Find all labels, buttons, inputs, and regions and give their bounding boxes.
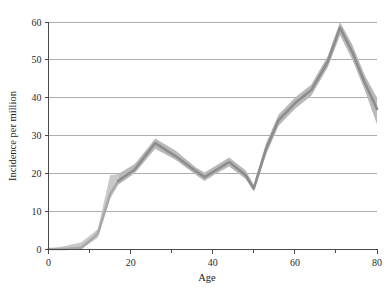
incidence-line-main	[118, 28, 377, 189]
y-tick-label-20: 20	[32, 168, 42, 179]
y-tick-label-50: 50	[32, 54, 42, 65]
incidence-by-age-line-chart: 0102030405060020406080 Age Incidence per…	[0, 0, 392, 291]
gridlines	[49, 22, 378, 211]
incidence-line	[49, 28, 378, 249]
y-tick-label-30: 30	[32, 130, 42, 141]
y-tick-label-10: 10	[32, 206, 42, 217]
axes	[45, 22, 378, 255]
y-tick-label-0: 0	[37, 244, 42, 255]
x-tick-label-0: 0	[46, 257, 51, 268]
x-tick-label-40: 40	[208, 257, 218, 268]
confidence-band-young	[49, 174, 119, 249]
x-tick-label-20: 20	[126, 257, 136, 268]
x-tick-label-60: 60	[290, 257, 300, 268]
y-tick-label-40: 40	[32, 92, 42, 103]
y-axis-title: Incidence per million	[7, 90, 18, 181]
y-tick-label-60: 60	[32, 17, 42, 28]
confidence-band-main	[118, 22, 377, 191]
chart-container: 0102030405060020406080 Age Incidence per…	[0, 0, 392, 291]
x-axis-title: Age	[198, 272, 216, 283]
x-tick-label-80: 80	[372, 257, 382, 268]
